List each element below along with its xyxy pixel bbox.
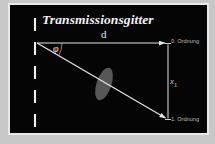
label-order-zero: 0. Ordnung <box>171 39 199 45</box>
angle-arc <box>59 43 63 56</box>
figure-title: Transmissionsgitter <box>42 13 154 27</box>
label-angle-phi: φ <box>53 44 59 54</box>
transmission-grating-figure: Transmissionsgitter d φ x1 0. Ordnung 1.… <box>0 0 215 144</box>
label-order-one: 1. Ordnung <box>171 117 199 123</box>
lens-shape <box>92 66 117 103</box>
diffracted-ray-arrow <box>37 43 166 118</box>
label-separation-subscript: 1 <box>174 81 177 88</box>
label-distance-d: d <box>101 29 107 40</box>
label-separation-x1: x1 <box>170 77 177 88</box>
